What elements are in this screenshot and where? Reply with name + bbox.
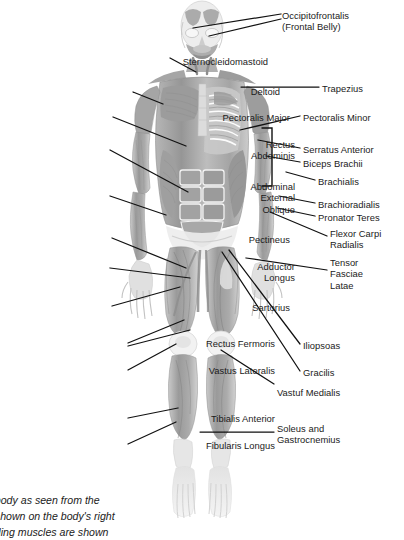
label-fibularis-longus: Fibularis Longus bbox=[206, 440, 275, 451]
label-vastus-medialis: Vastuf Medialis bbox=[277, 387, 340, 398]
label-brachialis: Brachialis bbox=[318, 176, 359, 187]
label-sartorius: Sartorius bbox=[252, 302, 290, 313]
label-pronator-teres: Pronator Teres bbox=[318, 212, 380, 223]
label-pectineus: Pectineus bbox=[249, 234, 290, 245]
label-gracilis: Gracilis bbox=[303, 367, 334, 378]
label-biceps-brachii: Biceps Brachii bbox=[303, 158, 363, 169]
label-rectus-abdominis: Rectus Abdominis bbox=[251, 139, 295, 162]
label-tibialis-anterior: Tibialis Anterior bbox=[211, 413, 275, 424]
label-brachioradialis: Brachioradialis bbox=[318, 199, 380, 210]
leader-brachialis bbox=[286, 172, 315, 180]
label-occipitofrontalis: Occipitofrontalis (Frontal Belly) bbox=[282, 10, 349, 33]
anatomy-diagram: Occipitofrontalis (Frontal Belly) Trapez… bbox=[0, 0, 404, 540]
label-sternocleidomastoid: Sternocleidomastoid bbox=[183, 56, 268, 67]
label-trapezius: Trapezius bbox=[322, 83, 363, 94]
label-rectus-femoris: Rectus Fermoris bbox=[206, 338, 275, 349]
label-pectoralis-minor: Pectoralis Minor bbox=[303, 112, 371, 123]
label-adductor-longus: Adductor Longus bbox=[257, 261, 295, 284]
figure-caption: ...body as seen from the ...shown on the… bbox=[0, 492, 216, 540]
label-serratus-anterior: Serratus Anterior bbox=[303, 144, 374, 155]
label-flexor-carpi-radialis: Flexor Carpi Radialis bbox=[330, 228, 381, 251]
label-pectoralis-major: Pectoralis Major bbox=[222, 112, 290, 123]
leg-right-region bbox=[206, 247, 240, 518]
label-iliopsoas: Iliopsoas bbox=[303, 340, 340, 351]
head-region bbox=[181, 1, 223, 59]
leader-fibularis-longus bbox=[128, 422, 176, 444]
label-vastus-lateralis: Vastus Lateralis bbox=[209, 365, 275, 376]
label-tensor-fasciae-latae: Tensor Fasciae Latae bbox=[330, 257, 363, 291]
leader-vastus-lateralis bbox=[128, 344, 176, 370]
label-soleus-gastrocnemius: Soleus and Gastrocnemius bbox=[277, 423, 340, 446]
label-deltoid: Deltoid bbox=[251, 86, 280, 97]
label-abdominal-external-oblique: Abdominal External Oblique bbox=[251, 181, 295, 215]
